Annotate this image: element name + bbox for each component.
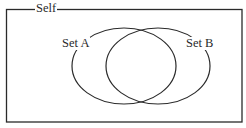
universe-label: Self bbox=[35, 2, 57, 15]
set-a-label: Set A bbox=[61, 37, 90, 50]
set-b-label: Set B bbox=[185, 37, 214, 50]
venn-diagram bbox=[0, 0, 246, 128]
universe-box-self bbox=[7, 10, 243, 123]
